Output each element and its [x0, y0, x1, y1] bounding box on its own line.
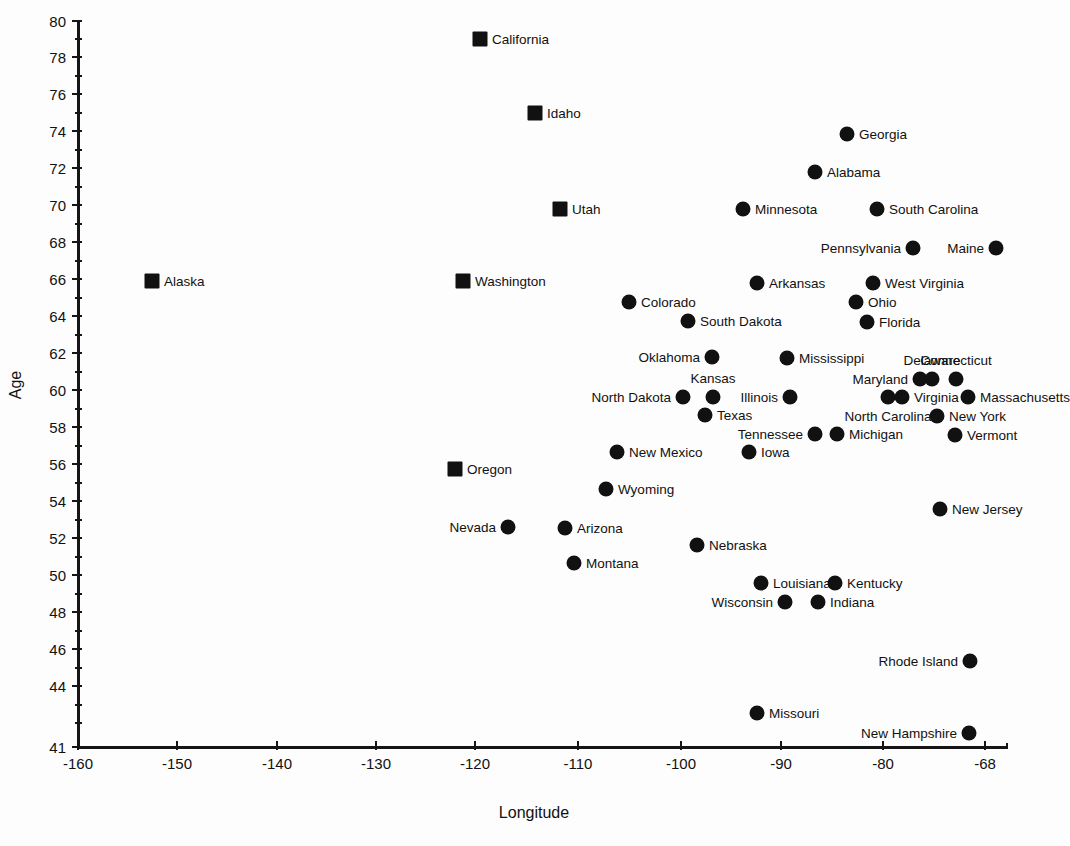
- data-point-marker[interactable]: [840, 127, 855, 142]
- y-tick-78: [72, 56, 82, 58]
- data-point-marker[interactable]: [783, 390, 798, 405]
- data-point-label: Vermont: [967, 428, 1017, 443]
- data-point-marker[interactable]: [750, 706, 765, 721]
- y-tick-minor: [75, 482, 82, 484]
- y-tick-minor: [75, 297, 82, 299]
- data-point-marker[interactable]: [558, 521, 573, 536]
- data-point-marker[interactable]: [811, 595, 826, 610]
- data-point-marker[interactable]: [145, 274, 160, 289]
- y-tick-label: 78: [26, 49, 66, 66]
- data-point-marker[interactable]: [705, 350, 720, 365]
- x-tick-label: -160: [63, 755, 93, 772]
- data-point-label: Pennsylvania: [821, 241, 901, 256]
- x-tick-neg90: [780, 741, 782, 750]
- data-point-marker[interactable]: [906, 241, 921, 256]
- data-point-marker[interactable]: [736, 202, 751, 217]
- data-point-marker[interactable]: [780, 351, 795, 366]
- data-point-label: Arizona: [577, 521, 623, 536]
- y-tick-label: 52: [26, 530, 66, 547]
- data-point-marker[interactable]: [754, 576, 769, 591]
- y-tick-label: 54: [26, 493, 66, 510]
- data-point-marker[interactable]: [473, 32, 488, 47]
- data-point-label: Iowa: [761, 445, 790, 460]
- data-point-marker[interactable]: [925, 372, 940, 387]
- data-point-label: Maryland: [852, 372, 908, 387]
- data-point-marker[interactable]: [610, 445, 625, 460]
- y-tick-41: [72, 746, 82, 748]
- data-point-marker[interactable]: [962, 726, 977, 741]
- data-point-marker[interactable]: [933, 502, 948, 517]
- data-point-label: Mississippi: [799, 351, 864, 366]
- y-tick-label: 74: [26, 123, 66, 140]
- y-tick-minor: [75, 704, 82, 706]
- y-tick-minor: [75, 519, 82, 521]
- x-tick-neg130: [375, 741, 377, 750]
- data-point-marker[interactable]: [930, 409, 945, 424]
- data-point-label: Rhode Island: [878, 654, 958, 669]
- data-point-marker[interactable]: [456, 274, 471, 289]
- x-tick-label: -140: [262, 755, 292, 772]
- data-point-marker[interactable]: [808, 165, 823, 180]
- y-tick-64: [72, 315, 82, 317]
- y-tick-label: 66: [26, 271, 66, 288]
- data-point-label: Florida: [879, 315, 920, 330]
- data-point-marker[interactable]: [778, 595, 793, 610]
- data-point-marker[interactable]: [895, 390, 910, 405]
- data-point-label: West Virginia: [885, 276, 964, 291]
- data-point-marker[interactable]: [828, 576, 843, 591]
- y-tick-minor: [75, 112, 82, 114]
- y-tick-minor: [75, 630, 82, 632]
- y-tick-minor: [75, 667, 82, 669]
- data-point-marker[interactable]: [681, 314, 696, 329]
- data-point-label: Colorado: [641, 295, 696, 310]
- data-point-marker[interactable]: [830, 427, 845, 442]
- data-point-marker[interactable]: [961, 390, 976, 405]
- data-point-label: Virginia: [914, 390, 959, 405]
- data-point-marker[interactable]: [448, 462, 463, 477]
- data-point-marker[interactable]: [706, 390, 721, 405]
- data-point-marker[interactable]: [870, 202, 885, 217]
- data-point-label: Wisconsin: [711, 595, 773, 610]
- data-point-marker[interactable]: [949, 372, 964, 387]
- y-tick-minor: [75, 75, 82, 77]
- data-point-marker[interactable]: [948, 428, 963, 443]
- data-point-marker[interactable]: [528, 106, 543, 121]
- y-tick-label: 76: [26, 86, 66, 103]
- y-tick-68: [72, 241, 82, 243]
- x-tick-label: -130: [361, 755, 391, 772]
- y-tick-minor: [75, 149, 82, 151]
- y-tick-44: [72, 685, 82, 687]
- data-point-marker[interactable]: [860, 315, 875, 330]
- data-point-marker[interactable]: [676, 390, 691, 405]
- y-tick-minor: [75, 408, 82, 410]
- y-tick-label: 80: [26, 13, 66, 30]
- y-tick-label: 60: [26, 382, 66, 399]
- data-point-marker[interactable]: [698, 408, 713, 423]
- y-tick-74: [72, 130, 82, 132]
- data-point-marker[interactable]: [849, 295, 864, 310]
- data-point-label: New Jersey: [952, 502, 1023, 517]
- x-axis-line: [78, 746, 1008, 749]
- data-point-marker[interactable]: [553, 202, 568, 217]
- data-point-label: Missouri: [769, 706, 819, 721]
- data-point-marker[interactable]: [567, 556, 582, 571]
- data-point-marker[interactable]: [622, 295, 637, 310]
- data-point-marker[interactable]: [501, 520, 516, 535]
- data-point-marker[interactable]: [963, 654, 978, 669]
- data-point-marker[interactable]: [808, 427, 823, 442]
- data-point-marker[interactable]: [989, 241, 1004, 256]
- data-point-label: South Carolina: [889, 202, 978, 217]
- x-tick-neg140: [276, 741, 278, 750]
- data-point-label: Kentucky: [847, 576, 903, 591]
- data-point-marker[interactable]: [690, 538, 705, 553]
- y-tick-76: [72, 93, 82, 95]
- data-point-marker[interactable]: [599, 482, 614, 497]
- data-point-marker[interactable]: [881, 390, 896, 405]
- data-point-label: Montana: [586, 556, 639, 571]
- data-point-marker[interactable]: [750, 276, 765, 291]
- data-point-marker[interactable]: [866, 276, 881, 291]
- data-point-marker[interactable]: [742, 445, 757, 460]
- y-tick-minor: [75, 186, 82, 188]
- x-tick-neg100: [680, 741, 682, 750]
